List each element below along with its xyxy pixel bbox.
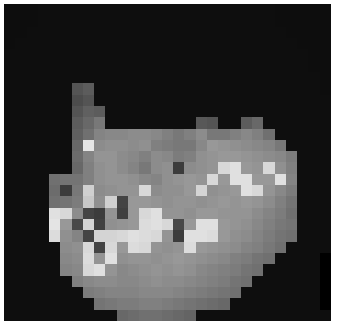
pixel-cell <box>308 95 319 106</box>
pixel-cell <box>173 230 184 241</box>
pixel-cell <box>128 298 139 309</box>
pixel-cell <box>4 276 15 287</box>
pixel-cell <box>320 129 331 140</box>
pixel-cell <box>184 49 195 60</box>
pixel-cell <box>218 15 229 26</box>
pixel-cell <box>263 310 274 321</box>
pixel-cell <box>286 151 297 162</box>
pixel-cell <box>139 298 150 309</box>
pixel-cell <box>184 219 195 230</box>
pixel-cell <box>72 83 83 94</box>
pixel-cell <box>263 253 274 264</box>
pixel-cell <box>105 185 116 196</box>
pixel-cell <box>94 310 105 321</box>
pixel-cell <box>60 151 71 162</box>
pixel-cell <box>207 174 218 185</box>
pixel-cell <box>241 287 252 298</box>
pixel-cell <box>173 253 184 264</box>
pixel-cell <box>252 4 263 15</box>
pixel-cell <box>60 298 71 309</box>
pixel-cell <box>308 196 319 207</box>
pixel-cell <box>230 15 241 26</box>
pixel-cell <box>139 140 150 151</box>
pixel-cell <box>117 276 128 287</box>
pixel-cell <box>105 49 116 60</box>
pixel-cell <box>196 185 207 196</box>
pixel-cell <box>94 174 105 185</box>
pixel-cell <box>38 38 49 49</box>
pixel-cell <box>128 61 139 72</box>
pixel-cell <box>117 298 128 309</box>
pixel-cell <box>241 185 252 196</box>
pixel-cell <box>207 298 218 309</box>
pixel-cell <box>151 38 162 49</box>
pixel-cell <box>94 106 105 117</box>
pixel-cell <box>184 242 195 253</box>
pixel-cell <box>230 106 241 117</box>
pixel-cell <box>207 140 218 151</box>
pixel-cell <box>230 129 241 140</box>
pixel-cell <box>173 219 184 230</box>
pixel-cell <box>151 242 162 253</box>
pixel-cell <box>184 106 195 117</box>
pixel-cell <box>162 185 173 196</box>
pixel-cell <box>207 264 218 275</box>
pixel-cell <box>128 95 139 106</box>
pixel-cell <box>230 95 241 106</box>
pixel-cell <box>15 185 26 196</box>
pixel-cell <box>297 4 308 15</box>
pixel-cell <box>128 15 139 26</box>
pixel-cell <box>297 208 308 219</box>
pixel-cell <box>139 242 150 253</box>
pixel-cell <box>60 129 71 140</box>
pixel-cell <box>297 162 308 173</box>
pixel-cell <box>275 174 286 185</box>
pixel-cell <box>105 196 116 207</box>
pixel-cell <box>184 162 195 173</box>
pixel-cell <box>38 117 49 128</box>
pixel-grid <box>4 4 331 321</box>
pixel-cell <box>320 242 331 253</box>
pixel-cell <box>297 242 308 253</box>
pixel-cell <box>27 298 38 309</box>
pixel-cell <box>128 129 139 140</box>
pixel-cell <box>218 38 229 49</box>
pixel-cell <box>241 276 252 287</box>
pixel-cell <box>275 242 286 253</box>
pixel-cell <box>83 242 94 253</box>
pixel-cell <box>252 162 263 173</box>
pixel-cell <box>230 208 241 219</box>
pixel-cell <box>230 49 241 60</box>
pixel-cell <box>308 72 319 83</box>
pixel-cell <box>286 208 297 219</box>
pixel-cell <box>128 264 139 275</box>
pixel-cell <box>173 49 184 60</box>
pixel-cell <box>94 162 105 173</box>
pixel-cell <box>117 140 128 151</box>
pixel-cell <box>184 264 195 275</box>
pixel-cell <box>38 72 49 83</box>
pixel-cell <box>139 27 150 38</box>
pixel-cell <box>196 298 207 309</box>
pixel-cell <box>27 162 38 173</box>
pixel-cell <box>94 298 105 309</box>
pixel-cell <box>4 4 15 15</box>
pixel-cell <box>320 61 331 72</box>
pixel-cell <box>275 140 286 151</box>
pixel-cell <box>286 72 297 83</box>
pixel-cell <box>230 174 241 185</box>
pixel-cell <box>308 151 319 162</box>
pixel-cell <box>275 185 286 196</box>
pixel-cell <box>184 185 195 196</box>
pixel-cell <box>105 15 116 26</box>
pixel-cell <box>151 264 162 275</box>
pixel-cell <box>49 253 60 264</box>
pixel-cell <box>275 230 286 241</box>
pixel-cell <box>105 106 116 117</box>
pixel-cell <box>218 230 229 241</box>
pixel-cell <box>252 310 263 321</box>
pixel-cell <box>275 298 286 309</box>
pixel-cell <box>173 27 184 38</box>
pixel-cell <box>263 4 274 15</box>
pixel-cell <box>252 49 263 60</box>
